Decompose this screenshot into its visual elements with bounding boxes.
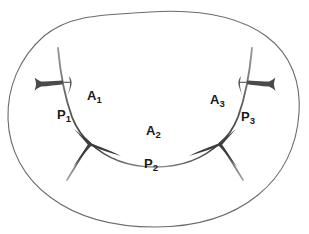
label-a2-subscript: 2 <box>155 129 160 140</box>
label-a1-base: A <box>87 88 96 103</box>
label-p3: P3 <box>241 110 255 125</box>
label-p2: P2 <box>144 157 158 172</box>
label-p1-base: P <box>57 107 66 122</box>
arc-p1-a1-boundary <box>58 48 90 143</box>
figure-container: A1 P1 A2 P2 A3 P3 <box>0 0 309 234</box>
arc-p3-a3-boundary <box>220 48 252 143</box>
label-p1: P1 <box>57 108 71 123</box>
label-a3: A3 <box>210 93 225 108</box>
label-p3-subscript: 3 <box>250 115 255 126</box>
outer-boundary <box>8 11 299 227</box>
label-a3-subscript: 3 <box>219 98 224 109</box>
label-p2-base: P <box>144 156 153 171</box>
label-a2-base: A <box>146 123 155 138</box>
triple-junction-left <box>73 129 121 167</box>
label-a1-subscript: 1 <box>96 94 101 105</box>
label-p3-base: P <box>241 109 250 124</box>
label-p1-subscript: 1 <box>66 113 71 124</box>
partition-diagram <box>0 0 309 234</box>
spur-arc-joint-left <box>68 76 72 95</box>
triple-junction-right <box>189 129 237 167</box>
label-a3-base: A <box>210 92 219 107</box>
label-a1: A1 <box>87 89 102 104</box>
label-a2: A2 <box>146 124 161 139</box>
spur-arc-joint-right <box>238 76 242 95</box>
label-p2-subscript: 2 <box>153 162 158 173</box>
